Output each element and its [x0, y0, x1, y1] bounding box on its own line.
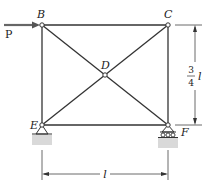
load-label: P — [5, 28, 13, 41]
arrowhead-right — [161, 172, 168, 176]
arrowhead-left — [42, 172, 49, 176]
joint-D — [103, 73, 107, 77]
ground-E — [32, 135, 52, 145]
truss-diagram: P 3 4 l l — [0, 0, 205, 184]
roller-support-F — [158, 125, 178, 148]
joint-F — [166, 123, 170, 127]
arrowhead-up — [193, 25, 197, 32]
height-numerator: 3 — [188, 65, 194, 75]
joint-E — [40, 123, 44, 127]
height-symbol: l — [198, 70, 202, 83]
joint-B — [40, 23, 44, 27]
node-label-C: C — [164, 8, 173, 21]
width-symbol: l — [103, 168, 107, 181]
node-label-E: E — [29, 119, 38, 132]
ground-F — [158, 138, 178, 148]
node-label-D: D — [100, 59, 110, 72]
node-label-F: F — [180, 126, 189, 139]
node-label-B: B — [36, 8, 45, 21]
height-denominator: 4 — [188, 78, 194, 88]
arrowhead-down — [193, 118, 197, 125]
joint-C — [166, 23, 170, 27]
